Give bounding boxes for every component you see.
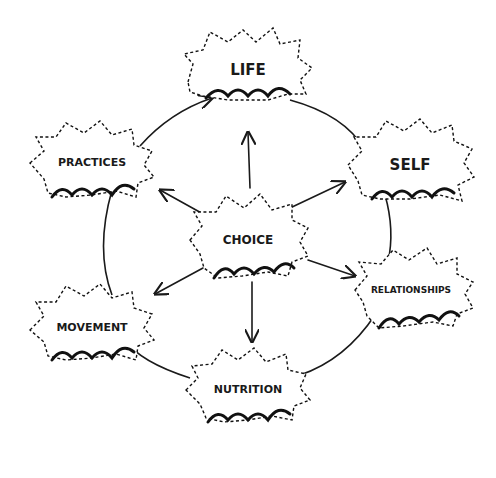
arc-practices-life <box>140 98 212 146</box>
node-self: SELF <box>348 119 474 201</box>
node-relationships: RELATIONSHIPS <box>355 248 473 328</box>
node-movement: MOVEMENT <box>30 284 154 360</box>
choice-wellness-diagram: LIFE SELF RELATIONSHIPS NUTRITION MOVEME… <box>0 0 496 478</box>
node-label: NUTRITION <box>214 383 282 396</box>
arc-life-self <box>290 100 365 150</box>
node-label: SELF <box>390 156 431 174</box>
arc-self-relationships <box>385 195 391 262</box>
node-choice-center: CHOICE <box>190 194 308 278</box>
arrow-to-movement <box>155 268 203 294</box>
node-label: MOVEMENT <box>56 321 128 334</box>
arrow-to-self <box>290 182 345 208</box>
arrow-to-practices <box>160 190 205 215</box>
node-life: LIFE <box>184 28 312 100</box>
arc-movement-practices <box>104 190 113 295</box>
node-label: RELATIONSHIPS <box>371 285 451 295</box>
node-practices: PRACTICES <box>30 121 154 197</box>
arc-relationships-nutrition <box>300 315 375 375</box>
arrow-to-relationships <box>308 260 355 276</box>
node-nutrition: NUTRITION <box>186 348 310 422</box>
arrow-to-life <box>248 132 250 188</box>
node-label: CHOICE <box>223 233 274 247</box>
node-label: LIFE <box>230 61 266 79</box>
node-label: PRACTICES <box>58 156 126 169</box>
